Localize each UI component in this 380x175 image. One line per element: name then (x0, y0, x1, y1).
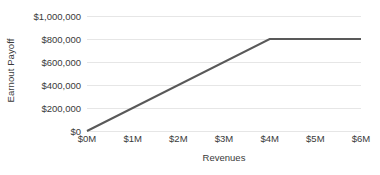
y-axis-tick-label: $800,000 (41, 34, 81, 45)
y-axis-tick-label: $200,000 (41, 103, 81, 114)
x-axis-title: Revenues (87, 152, 361, 163)
earnout-payoff-line-chart: Earnout Payoff $0$200,000$400,000$600,00… (0, 0, 380, 175)
gridline-y (87, 131, 361, 132)
y-axis-tick-labels: $0$200,000$400,000$600,000$800,000$1,000… (20, 0, 84, 140)
x-axis-tick-label: $1M (123, 133, 141, 144)
series-line-earnout-payoff (87, 16, 361, 131)
x-axis-tick-label: $2M (169, 133, 187, 144)
x-axis-tick-labels: $0M$1M$2M$3M$4M$5M$6M (0, 133, 380, 147)
y-axis-tick-label: $600,000 (41, 57, 81, 68)
plot-area (87, 16, 361, 131)
y-axis-tick-label: $1,000,000 (33, 11, 81, 22)
x-axis-tick-label: $4M (260, 133, 278, 144)
x-axis-tick-label: $5M (306, 133, 324, 144)
y-axis-tick-label: $400,000 (41, 80, 81, 91)
y-axis-title-label: Earnout Payoff (5, 38, 16, 102)
y-axis-title: Earnout Payoff (0, 0, 20, 140)
x-axis-tick-label: $6M (352, 133, 370, 144)
x-axis-tick-label: $0M (78, 133, 96, 144)
x-axis-tick-label: $3M (215, 133, 233, 144)
